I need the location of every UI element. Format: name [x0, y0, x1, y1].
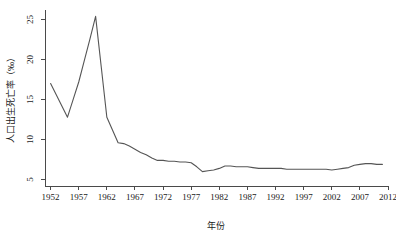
line-chart: 510152025 195219571962196719721977198219…: [0, 0, 396, 233]
y-tick-label: 10: [25, 135, 35, 145]
y-tick-label: 15: [25, 95, 35, 105]
x-tick-label: 2002: [323, 192, 341, 202]
x-tick-label: 1992: [267, 192, 285, 202]
y-tick-label: 20: [25, 55, 35, 65]
x-tick-label: 1997: [295, 192, 314, 202]
x-tick-label: 1982: [210, 192, 228, 202]
x-tick-label: 1987: [238, 192, 257, 202]
x-tick-label: 1952: [42, 192, 60, 202]
x-axis-ticks: 1952195719621967197219771982198719921997…: [42, 186, 396, 202]
x-tick-label: 2007: [351, 192, 370, 202]
chart-container: 510152025 195219571962196719721977198219…: [0, 0, 396, 233]
x-tick-label: 1962: [98, 192, 116, 202]
y-axis-ticks: 510152025: [25, 15, 45, 182]
x-tick-label: 2012: [379, 192, 396, 202]
x-tick-label: 1977: [182, 192, 201, 202]
y-tick-label: 5: [25, 177, 35, 182]
x-tick-label: 1967: [126, 192, 145, 202]
y-axis-title: 人口出生死亡率（‰）: [5, 53, 16, 143]
x-tick-label: 1972: [154, 192, 172, 202]
x-axis-title: 年份: [207, 220, 225, 231]
data-series-line: [51, 16, 383, 171]
x-tick-label: 1957: [70, 192, 89, 202]
y-tick-label: 25: [25, 15, 35, 25]
